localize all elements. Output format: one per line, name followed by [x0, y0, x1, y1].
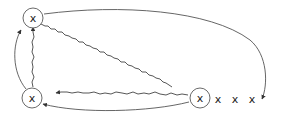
edge-bottomleft-to-topleft-curved: [15, 30, 26, 89]
node-tail-1: x: [215, 93, 222, 106]
node-label: x: [30, 12, 37, 25]
node-tail-3: x: [249, 93, 256, 106]
node-tail-2: x: [232, 93, 239, 106]
edge-topleft-to-bottomright-wavy: [41, 24, 172, 87]
node-top-left: x: [23, 8, 43, 28]
edge-topleft-to-tail: [44, 10, 266, 99]
edge-bottomleft-to-topleft-wavy: [32, 27, 34, 87]
edge-bottomright-to-bottomleft-wavy: [56, 92, 188, 95]
diagram-canvas: x x x x x x: [0, 0, 289, 119]
node-label: x: [197, 92, 204, 105]
node-bottom-left: x: [22, 88, 42, 108]
node-label: x: [29, 92, 36, 105]
node-bottom-right: x: [190, 88, 210, 108]
edge-bottomright-to-bottomleft-smooth: [43, 102, 189, 111]
